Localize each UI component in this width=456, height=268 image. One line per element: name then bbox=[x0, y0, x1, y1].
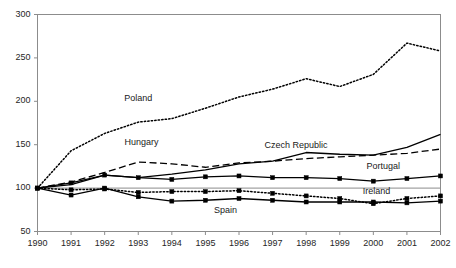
series-label-ireland: Ireland bbox=[363, 186, 391, 196]
series-label-spain: Spain bbox=[214, 205, 237, 215]
x-tick-label-1993: 1993 bbox=[121, 238, 155, 248]
series-label-poland: Poland bbox=[124, 93, 152, 103]
x-axis-ticks bbox=[38, 232, 441, 236]
y-tick-label-100: 100 bbox=[5, 182, 31, 192]
series-label-hungary: Hungary bbox=[125, 137, 159, 147]
x-tick-label-1995: 1995 bbox=[188, 238, 222, 248]
y-tick-label-150: 150 bbox=[5, 139, 31, 149]
x-tick-label-1991: 1991 bbox=[54, 238, 88, 248]
x-tick-label-2001: 2001 bbox=[390, 238, 424, 248]
x-tick-label-1999: 1999 bbox=[323, 238, 357, 248]
x-tick-label-2002: 2002 bbox=[424, 238, 456, 248]
y-tick-label-200: 200 bbox=[5, 95, 31, 105]
chart-container: 5010015020025030019901991199219931994199… bbox=[0, 0, 456, 268]
x-tick-label-1992: 1992 bbox=[88, 238, 122, 248]
series-label-czech-republic: Czech Republic bbox=[265, 140, 328, 150]
line-chart-plot bbox=[0, 0, 456, 268]
x-tick-label-1996: 1996 bbox=[222, 238, 256, 248]
series-label-portugal: Portugal bbox=[366, 161, 400, 171]
x-tick-label-1998: 1998 bbox=[289, 238, 323, 248]
x-tick-label-1990: 1990 bbox=[21, 238, 55, 248]
x-tick-label-2000: 2000 bbox=[356, 238, 390, 248]
y-tick-label-250: 250 bbox=[5, 52, 31, 62]
y-tick-label-50: 50 bbox=[5, 226, 31, 236]
x-tick-label-1997: 1997 bbox=[256, 238, 290, 248]
y-axis-ticks bbox=[34, 15, 38, 232]
y-tick-label-300: 300 bbox=[5, 9, 31, 19]
x-tick-label-1994: 1994 bbox=[155, 238, 189, 248]
